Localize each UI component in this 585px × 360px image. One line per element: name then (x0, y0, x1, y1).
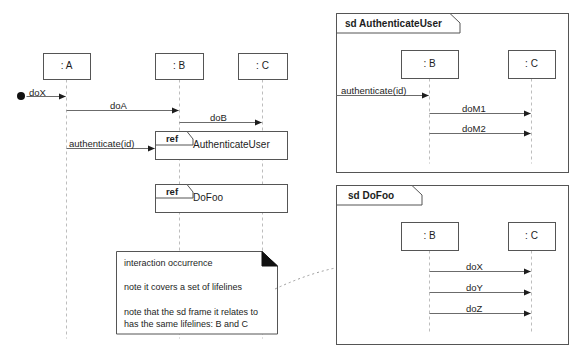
frame-dofoo-lifeline-label-B: : B (401, 230, 458, 242)
frame-authenticateuser-lifeline-label-B: : B (401, 58, 458, 70)
frame-dofoo-message-label-1: doY (466, 282, 483, 293)
diagram-canvas: : A: B: CdoXdoAdoBauthenticate(id)refAut… (0, 0, 585, 360)
message-label-2: doB (210, 112, 227, 123)
message-label-1: doA (110, 100, 127, 111)
note-anchor-line (275, 267, 340, 289)
frame-dofoo-border[interactable] (337, 186, 569, 345)
lifeline-label-A: : A (43, 60, 90, 72)
diagram-vector-layer (0, 0, 585, 360)
message-label-0: doX (29, 87, 46, 98)
lifeline-label-B: : B (155, 60, 203, 72)
interaction-use-keyword-1: ref (156, 186, 188, 197)
frame-authenticateuser-message-label-1: doM2 (462, 123, 486, 134)
interaction-use-name-1: DoFoo (193, 192, 223, 204)
message-label-3: authenticate(id) (69, 138, 134, 149)
interaction-use-keyword-0: ref (156, 133, 188, 144)
note-line-2: note it covers a set of lifelines (124, 282, 242, 293)
frame-dofoo-title: sd DoFoo (348, 190, 394, 202)
lifeline-label-C: : C (238, 60, 287, 72)
note-fold-corner-icon (262, 252, 278, 267)
frame-dofoo-message-label-2: doZ (466, 303, 482, 314)
frame-authenticateuser-lifeline-label-C: : C (508, 58, 555, 70)
interaction-use-name-0: AuthenticateUser (193, 139, 270, 151)
note-line-0: interaction occurrence (124, 258, 213, 269)
frame-authenticateuser-message-label-0: doM1 (462, 103, 486, 114)
note-line-5: has the same lifelines: B and C (124, 319, 248, 330)
frame-dofoo-lifeline-label-C: : C (508, 230, 555, 242)
found-message-origin-dot (17, 92, 25, 100)
frame-authenticateuser-inbound-label: authenticate(id) (341, 85, 406, 96)
frame-dofoo-message-label-0: doX (466, 261, 483, 272)
note-line-4: note that the sd frame it relates to (124, 307, 258, 318)
frame-authenticateuser-title: sd AuthenticateUser (345, 18, 442, 30)
